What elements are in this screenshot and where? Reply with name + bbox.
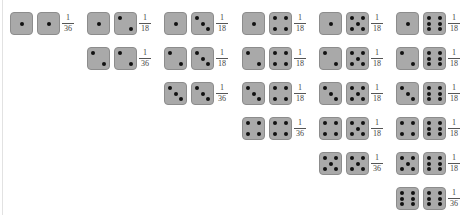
- pip-icon: [400, 197, 404, 201]
- pip-icon: [201, 57, 205, 61]
- fraction-denominator: 18: [215, 60, 229, 68]
- fraction-denominator: 18: [370, 25, 384, 33]
- pip-icon: [323, 156, 327, 160]
- pip-icon: [246, 132, 250, 136]
- pip-icon: [323, 86, 327, 90]
- pip-icon: [427, 57, 431, 61]
- probability-fraction: 136: [215, 84, 229, 103]
- left-edge-line: [2, 0, 3, 215]
- pip-icon: [438, 162, 442, 166]
- fraction-denominator: 18: [293, 60, 307, 68]
- pip-icon: [97, 22, 101, 26]
- pip-icon: [361, 86, 365, 90]
- fraction-denominator: 18: [447, 130, 461, 138]
- probability-fraction: 118: [447, 154, 461, 173]
- pip-icon: [361, 121, 365, 125]
- fraction-numerator: 1: [447, 49, 461, 57]
- pip-icon: [334, 167, 338, 171]
- fraction-numerator: 1: [215, 14, 229, 22]
- first-die-face-one: [319, 12, 342, 35]
- fraction-denominator: 18: [447, 95, 461, 103]
- first-die-face-three: [242, 82, 265, 105]
- pip-icon: [438, 167, 442, 171]
- pip-icon: [411, 191, 415, 195]
- first-die-face-five: [396, 152, 419, 175]
- fraction-numerator: 1: [215, 49, 229, 57]
- pip-icon: [257, 121, 261, 125]
- pip-icon: [438, 97, 442, 101]
- pip-icon: [427, 92, 431, 96]
- pip-icon: [174, 22, 178, 26]
- probability-fraction: 118: [447, 49, 461, 68]
- pip-icon: [350, 97, 354, 101]
- probability-fraction: 118: [215, 14, 229, 33]
- second-die-face-six: [423, 187, 446, 210]
- pip-icon: [427, 22, 431, 26]
- pip-icon: [400, 121, 404, 125]
- pip-icon: [246, 86, 250, 90]
- second-die-face-one: [37, 12, 60, 35]
- pip-icon: [356, 92, 360, 96]
- second-die-face-four: [269, 47, 292, 70]
- fraction-denominator: 18: [447, 60, 461, 68]
- fraction-numerator: 1: [293, 119, 307, 127]
- pip-icon: [361, 132, 365, 136]
- pip-icon: [273, 16, 277, 20]
- first-die-face-two: [319, 47, 342, 70]
- pip-icon: [323, 132, 327, 136]
- pip-icon: [334, 121, 338, 125]
- fraction-denominator: 36: [138, 60, 152, 68]
- fraction-numerator: 1: [447, 119, 461, 127]
- pip-icon: [427, 51, 431, 55]
- pip-icon: [284, 16, 288, 20]
- pip-icon: [195, 86, 199, 90]
- first-die-face-one: [87, 12, 110, 35]
- fraction-numerator: 1: [138, 14, 152, 22]
- pip-icon: [273, 51, 277, 55]
- pip-icon: [329, 162, 333, 166]
- pip-icon: [195, 16, 199, 20]
- fraction-denominator: 18: [447, 25, 461, 33]
- pip-icon: [427, 132, 431, 136]
- probability-fraction: 118: [370, 14, 384, 33]
- second-die-face-five: [346, 117, 369, 140]
- fraction-denominator: 36: [447, 200, 461, 208]
- pip-icon: [361, 62, 365, 66]
- pip-icon: [438, 191, 442, 195]
- pip-icon: [206, 97, 210, 101]
- fraction-numerator: 1: [293, 84, 307, 92]
- fraction-numerator: 1: [293, 14, 307, 22]
- pip-icon: [195, 51, 199, 55]
- pip-icon: [179, 62, 183, 66]
- fraction-numerator: 1: [447, 84, 461, 92]
- pip-icon: [411, 197, 415, 201]
- probability-fraction: 118: [447, 84, 461, 103]
- pip-icon: [129, 27, 133, 31]
- pip-icon: [361, 97, 365, 101]
- pip-icon: [284, 97, 288, 101]
- pip-icon: [273, 97, 277, 101]
- probability-fraction: 118: [370, 84, 384, 103]
- pip-icon: [329, 92, 333, 96]
- second-die-face-six: [423, 117, 446, 140]
- probability-fraction: 118: [215, 49, 229, 68]
- pip-icon: [329, 22, 333, 26]
- pip-icon: [350, 121, 354, 125]
- probability-fraction: 118: [447, 14, 461, 33]
- pip-icon: [400, 191, 404, 195]
- pip-icon: [350, 156, 354, 160]
- pip-icon: [350, 132, 354, 136]
- pip-icon: [334, 62, 338, 66]
- pip-icon: [438, 156, 442, 160]
- first-die-face-two: [87, 47, 110, 70]
- probability-fraction: 136: [61, 14, 75, 33]
- pip-icon: [284, 121, 288, 125]
- fraction-denominator: 18: [370, 60, 384, 68]
- pip-icon: [118, 51, 122, 55]
- fraction-numerator: 1: [138, 49, 152, 57]
- fraction-numerator: 1: [215, 84, 229, 92]
- second-die-face-three: [191, 12, 214, 35]
- pip-icon: [206, 62, 210, 66]
- probability-fraction: 136: [370, 154, 384, 173]
- pip-icon: [284, 86, 288, 90]
